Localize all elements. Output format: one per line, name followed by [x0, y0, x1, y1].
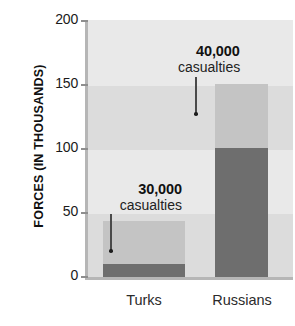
bar-russians-survivors — [215, 148, 268, 278]
y-tick-label-200: 200 — [18, 11, 78, 27]
bar-chart: FORCES (IN THOUSANDS) 200 150 100 50 0 T… — [0, 0, 295, 326]
x-category-label-turks: Turks — [103, 292, 185, 308]
annotation-russians-value: 40,000 — [178, 44, 283, 59]
bar-turks-casualties — [103, 221, 185, 264]
annotation-turks-value: 30,000 — [86, 182, 182, 197]
annotation-turks: 30,000 casualties — [86, 182, 182, 213]
annotation-russians-leader-dot — [194, 112, 198, 116]
tick-mark-0 — [81, 276, 88, 278]
bar-russians-casualties — [215, 84, 268, 148]
tick-mark-200 — [81, 20, 88, 22]
annotation-turks-word: casualties — [86, 197, 182, 213]
y-tick-label-0: 0 — [18, 267, 78, 283]
annotation-turks-leader-dot — [109, 249, 113, 253]
tick-mark-150 — [81, 84, 88, 86]
x-category-label-russians: Russians — [200, 292, 284, 308]
annotation-russians: 40,000 casualties — [178, 44, 283, 75]
annotation-russians-leader-line — [195, 77, 197, 113]
y-tick-label-150: 150 — [18, 75, 78, 91]
annotation-turks-leader-line — [110, 214, 112, 250]
tick-mark-100 — [81, 148, 88, 150]
bar-turks-survivors — [103, 264, 185, 278]
y-tick-label-50: 50 — [18, 203, 78, 219]
y-tick-label-100: 100 — [18, 139, 78, 155]
x-axis-line — [85, 277, 293, 280]
annotation-russians-word: casualties — [178, 59, 283, 75]
